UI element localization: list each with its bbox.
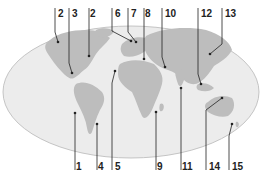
marker-label: 7: [131, 8, 137, 19]
marker-label: 8: [145, 8, 151, 19]
marker-dot: [114, 70, 117, 73]
marker-dot: [57, 41, 60, 44]
marker-dot: [74, 112, 77, 115]
marker-label: 9: [157, 161, 163, 172]
marker-dot: [143, 58, 146, 61]
marker-dot: [209, 53, 212, 56]
marker-label: 2: [90, 8, 96, 19]
marker-dot: [135, 41, 138, 44]
marker-dot: [200, 83, 203, 86]
marker-label: 14: [209, 161, 221, 172]
marker-label: 1: [76, 161, 82, 172]
marker-label: 2: [58, 8, 64, 19]
marker-label: 3: [72, 8, 78, 19]
marker-dot: [164, 66, 167, 69]
marker-dot: [130, 40, 133, 43]
marker-dot: [155, 111, 158, 114]
marker-label: 15: [232, 161, 244, 172]
world-map: 1232456789101112131415: [0, 0, 262, 178]
marker-label: 11: [182, 161, 193, 172]
marker-dot: [71, 72, 74, 75]
marker-dot: [88, 55, 91, 58]
marker-dot: [231, 123, 234, 126]
marker-label: 5: [115, 161, 121, 172]
marker-label: 4: [98, 161, 104, 172]
marker-label: 12: [201, 8, 213, 19]
marker-dot: [96, 123, 99, 126]
marker-dot: [180, 87, 183, 90]
marker-label: 6: [115, 8, 121, 19]
marker-label: 13: [225, 8, 237, 19]
marker-dot: [221, 97, 224, 100]
marker-label: 10: [165, 8, 177, 19]
